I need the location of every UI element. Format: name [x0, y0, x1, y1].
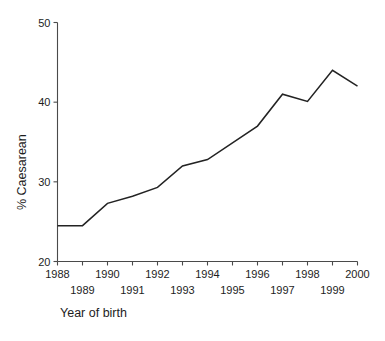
- x-axis-ticks: [58, 262, 358, 266]
- x-tick-label: 1993: [170, 284, 194, 296]
- x-tick-label: 1989: [70, 284, 94, 296]
- x-tick-label: 1988: [45, 268, 69, 280]
- x-tick-label: 1992: [145, 268, 169, 280]
- x-axis-tick-labels: 1988199019921994199619982000198919911993…: [45, 268, 369, 296]
- x-tick-label: 2000: [345, 268, 369, 280]
- x-tick-label: 1996: [245, 268, 269, 280]
- y-tick-label: 50: [38, 17, 50, 29]
- caesarean-series-line: [58, 70, 358, 225]
- x-tick-label: 1998: [295, 268, 319, 280]
- y-axis-tick-labels: 20304050: [38, 17, 50, 268]
- x-tick-label: 1991: [120, 284, 144, 296]
- y-axis-ticks: [54, 23, 58, 262]
- y-axis-title: % Caesarean: [15, 134, 29, 210]
- x-axis-title: Year of birth: [60, 306, 127, 320]
- y-tick-label: 20: [38, 256, 50, 268]
- caesarean-trend-chart: 20304050 1988199019921994199619982000198…: [0, 0, 385, 341]
- chart-canvas: 20304050 1988199019921994199619982000198…: [0, 0, 385, 341]
- x-tick-label: 1990: [95, 268, 119, 280]
- x-tick-label: 1997: [270, 284, 294, 296]
- y-tick-label: 40: [38, 96, 50, 108]
- x-tick-label: 1994: [195, 268, 219, 280]
- x-tick-label: 1995: [220, 284, 244, 296]
- y-tick-label: 30: [38, 176, 50, 188]
- x-tick-label: 1999: [320, 284, 344, 296]
